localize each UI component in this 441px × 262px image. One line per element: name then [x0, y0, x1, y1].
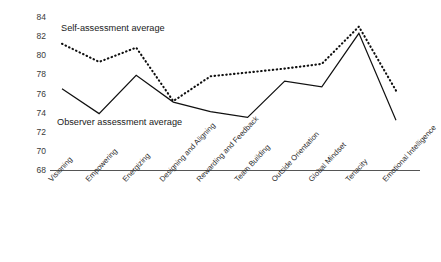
- series-line-observer-assessment-average: [62, 33, 396, 120]
- series-annotation-observer-assessment: Observer assessment average: [57, 117, 182, 128]
- series-line-self-assessment-average: [62, 27, 396, 102]
- series-annotation-self-assessment: Self-assessment average: [61, 23, 165, 34]
- line-chart: Percentile 848280787674727068 Self-asses…: [0, 0, 441, 262]
- chart-plot-area: [0, 0, 441, 262]
